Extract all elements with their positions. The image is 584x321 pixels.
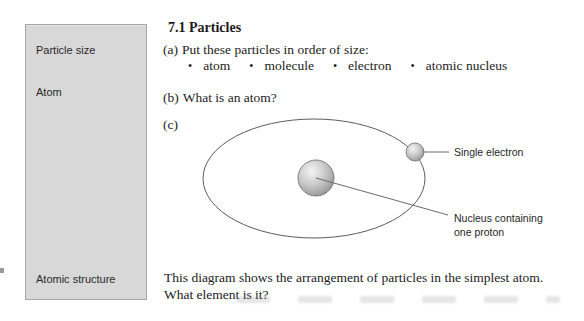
page-title: 7.1 Particles [168,20,241,36]
bullet-icon: • [188,59,192,74]
worksheet-page: Particle size Atom Atomic structure 7.1 … [0,0,584,321]
list-item-label: molecule [264,58,313,74]
question-a: (a)Put these particles in order of size: [163,42,369,58]
list-item-atom: • atom [188,58,230,74]
question-a-text: Put these particles in order of size: [182,42,369,57]
atom-diagram: Single electron Nucleus containing one p… [195,110,584,260]
nucleus-leader-line [316,178,448,215]
bullet-icon: • [249,59,253,74]
sidebar-item-atomic-structure: Atomic structure [36,273,115,285]
list-item-electron: • electron [333,58,392,74]
nucleus-label-line2: one proton [454,226,504,238]
nucleus-label-line1: Nucleus containing [454,212,543,224]
scan-artifact [236,296,560,303]
electron-sphere [406,143,424,161]
question-c: (c) [163,117,182,133]
list-item-label: electron [348,58,391,74]
list-item-atomic-nucleus: • atomic nucleus [411,58,508,74]
electron-label: Single electron [454,146,524,158]
question-b-text: What is an atom? [183,90,277,105]
list-item-label: atomic nucleus [426,58,507,74]
closing-line1: This diagram shows the arrangement of pa… [164,269,543,286]
question-b-label: (b) [163,90,179,105]
scan-artifact [0,268,4,273]
question-b: (b)What is an atom? [163,90,277,106]
list-item-label: atom [203,58,230,74]
question-c-label: (c) [163,117,178,132]
sidebar-item-atom: Atom [36,86,62,98]
list-item-molecule: • molecule [249,58,314,74]
particle-bullet-list: • atom • molecule • electron • atomic nu… [188,58,507,74]
sidebar-panel: Particle size Atom Atomic structure [25,24,147,300]
bullet-icon: • [333,59,337,74]
bullet-icon: • [411,59,415,74]
sidebar-item-particle-size: Particle size [36,44,95,56]
question-a-label: (a) [163,42,178,57]
